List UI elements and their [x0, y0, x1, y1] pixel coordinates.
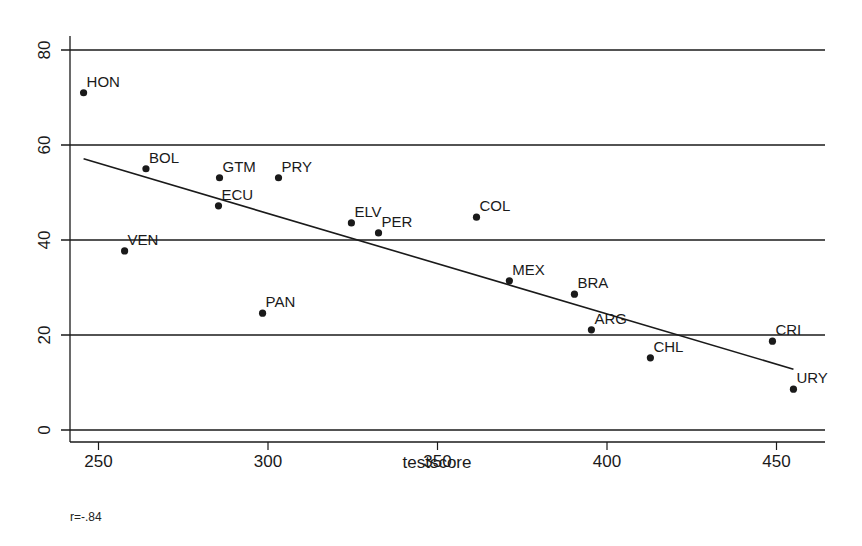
point-marker: [80, 89, 87, 96]
data-point: PRY: [275, 158, 312, 182]
point-label: MEX: [512, 261, 545, 278]
point-marker: [588, 326, 595, 333]
data-point: ARG: [588, 310, 627, 334]
y-tick-label: 20: [35, 326, 54, 345]
data-point: ELV: [348, 203, 382, 227]
gridlines: [61, 50, 825, 430]
point-label: PAN: [266, 293, 296, 310]
point-marker: [647, 354, 654, 361]
point-marker: [142, 165, 149, 172]
x-axis-label: testscore: [403, 453, 472, 472]
data-point: BRA: [571, 274, 608, 298]
point-label: BRA: [577, 274, 608, 291]
point-label: HON: [87, 73, 120, 90]
regression-line: [84, 159, 794, 369]
data-point: HON: [80, 73, 120, 97]
point-label: COL: [479, 197, 510, 214]
x-tick-label: 250: [84, 452, 112, 471]
y-tick-label: 40: [35, 231, 54, 250]
data-point: VEN: [121, 231, 158, 255]
y-axis-ticks: 020406080: [35, 41, 54, 435]
data-point: CHL: [647, 338, 684, 362]
point-marker: [790, 386, 797, 393]
point-label: CRI: [775, 321, 801, 338]
point-marker: [348, 219, 355, 226]
point-marker: [769, 338, 776, 345]
y-tick-label: 80: [35, 41, 54, 60]
point-label: PRY: [282, 158, 313, 175]
point-marker: [259, 310, 266, 317]
data-point: COL: [473, 197, 510, 221]
data-point: BOL: [142, 149, 179, 173]
point-marker: [375, 229, 382, 236]
correlation-note: r=-.84: [70, 510, 102, 524]
data-point: CRI: [769, 321, 801, 345]
point-marker: [506, 277, 513, 284]
data-points: HONBOLGTMPRYECUVENPANELVPERCOLMEXBRAARGC…: [80, 73, 828, 393]
point-marker: [473, 214, 480, 221]
point-marker: [571, 291, 578, 298]
scatter-chart: 020406080 250300350400450 testscore HONB…: [0, 0, 862, 546]
point-label: CHL: [653, 338, 683, 355]
data-point: GTM: [216, 158, 256, 182]
data-point: URY: [790, 369, 828, 393]
point-label: ELV: [354, 203, 381, 220]
x-tick-label: 400: [593, 452, 621, 471]
axes: [70, 36, 825, 442]
data-point: PER: [375, 213, 413, 237]
data-point: ECU: [215, 186, 253, 210]
point-label: BOL: [149, 149, 179, 166]
point-marker: [216, 174, 223, 181]
point-label: URY: [796, 369, 827, 386]
point-label: VEN: [128, 231, 159, 248]
y-tick-label: 0: [35, 425, 54, 434]
point-label: ECU: [222, 186, 254, 203]
y-tick-label: 60: [35, 136, 54, 155]
x-tick-label: 300: [254, 452, 282, 471]
point-label: ARG: [594, 310, 627, 327]
data-point: MEX: [506, 261, 545, 285]
point-label: GTM: [223, 158, 256, 175]
data-point: PAN: [259, 293, 295, 317]
point-label: PER: [382, 213, 413, 230]
x-tick-label: 450: [762, 452, 790, 471]
point-marker: [215, 202, 222, 209]
point-marker: [275, 174, 282, 181]
point-marker: [121, 247, 128, 254]
